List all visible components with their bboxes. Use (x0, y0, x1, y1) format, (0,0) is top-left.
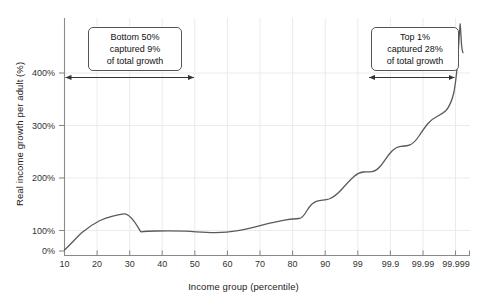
annotation-top-1-line1: Top 1% (378, 31, 452, 43)
xtick-label-80: 80 (288, 259, 298, 269)
annotation-bottom-50-line3: of total growth (95, 55, 175, 67)
xtick-label-99: 99 (353, 259, 363, 269)
y-axis-ticks (59, 73, 65, 251)
xtick-label-30: 30 (125, 259, 135, 269)
annotation-top-1-line2: captured 28% (378, 43, 452, 55)
annotation-bottom-50-line1: Bottom 50% (95, 31, 175, 43)
annotation-top-1-line3: of total growth (378, 55, 452, 67)
xtick-label-20: 20 (92, 259, 102, 269)
xtick-label-99-9: 99.9 (382, 259, 400, 269)
xtick-label-10: 10 (59, 259, 69, 269)
xtick-label-99-99: 99.99 (412, 259, 435, 269)
xtick-label-50: 50 (190, 259, 200, 269)
horizontal-gridlines (64, 73, 470, 231)
annotation-bottom-50-box: Bottom 50% captured 9% of total growth (88, 27, 182, 71)
ytick-label-400: 400% (0, 68, 55, 78)
chart-container: Bottom 50% captured 9% of total growth T… (0, 0, 487, 302)
x-axis-ticks (65, 251, 470, 256)
x-axis-title: Income group (percentile) (0, 281, 487, 292)
annotation-top-1-box: Top 1% captured 28% of total growth (371, 27, 459, 71)
ytick-label-200: 200% (0, 173, 55, 183)
y-axis-title: Real income growth per adult (%) (14, 62, 25, 206)
annotation-bottom-50-line2: captured 9% (95, 43, 175, 55)
ytick-label-300: 300% (0, 121, 55, 131)
ytick-label-100: 100% (0, 226, 55, 236)
ytick-label-0: 0% (0, 246, 55, 256)
xtick-label-99-999: 99.999 (442, 259, 470, 269)
xtick-label-60: 60 (222, 259, 232, 269)
xtick-label-40: 40 (157, 259, 167, 269)
xtick-label-70: 70 (255, 259, 265, 269)
xtick-label-90: 90 (320, 259, 330, 269)
